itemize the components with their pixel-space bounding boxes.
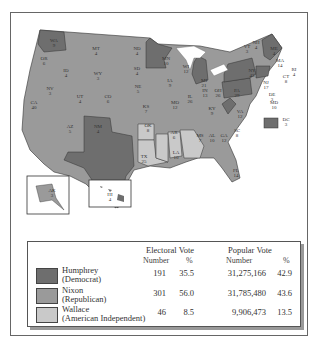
- svg-text:14: 14: [278, 63, 284, 68]
- ev-number: 191: [146, 268, 166, 278]
- svg-text:10: 10: [164, 61, 170, 66]
- state-ma-ct-ri: [256, 66, 270, 78]
- svg-text:4: 4: [293, 72, 296, 77]
- pop-number: 31,275,166: [208, 268, 266, 278]
- sub-pop-percent: %: [283, 256, 290, 265]
- pop-number: 31,785,480: [208, 288, 266, 298]
- pop-percent: 43.6: [274, 288, 292, 298]
- pop-number: 9,906,473: [208, 307, 266, 317]
- svg-text:14: 14: [234, 173, 240, 178]
- svg-text:25: 25: [142, 159, 148, 164]
- pop-percent: 13.5: [274, 307, 292, 317]
- svg-text:12: 12: [184, 69, 190, 74]
- ev-number: 301: [146, 288, 166, 298]
- svg-text:17: 17: [264, 85, 270, 90]
- header-electoral-vote: Electoral Vote: [146, 245, 194, 255]
- ev-percent: 56.0: [174, 288, 194, 298]
- state-ms: [156, 134, 168, 162]
- swatch-republican: [36, 288, 58, 304]
- svg-text:8: 8: [285, 79, 288, 84]
- svg-text:26: 26: [188, 99, 194, 104]
- header-popular-vote: Popular Vote: [228, 245, 272, 255]
- svg-text:43: 43: [250, 73, 256, 78]
- pop-percent: 42.9: [274, 268, 292, 278]
- candidate-name: Nixon(Republican): [62, 286, 106, 304]
- svg-text:10: 10: [272, 105, 278, 110]
- swatch-democrat: [36, 268, 58, 284]
- sub-ev-number: Number: [143, 256, 169, 265]
- legend-row-wallace: Wallace(American Independent) 46 8.5 9,9…: [28, 305, 300, 327]
- ev-number: 46: [146, 307, 166, 317]
- svg-text:8: 8: [236, 133, 239, 138]
- svg-text:26: 26: [216, 93, 222, 98]
- svg-text:10: 10: [210, 138, 216, 143]
- svg-text:40: 40: [32, 105, 38, 110]
- results-legend: Electoral Vote Popular Vote Number % Num…: [27, 241, 301, 327]
- ev-percent: 35.5: [174, 268, 194, 278]
- candidate-name: Wallace(American Independent): [62, 305, 145, 323]
- svg-text:12: 12: [238, 114, 244, 119]
- svg-text:29: 29: [235, 93, 241, 98]
- sub-ev-percent: %: [186, 256, 193, 265]
- ev-percent: 8.5: [174, 307, 194, 317]
- svg-text:12: 12: [222, 138, 228, 143]
- candidate-name: Humphrey(Democrat): [62, 266, 101, 284]
- svg-text:13: 13: [203, 93, 209, 98]
- sub-pop-number: Number: [226, 256, 252, 265]
- svg-text:12: 12: [173, 105, 179, 110]
- state-dc-box: [264, 118, 278, 128]
- svg-text:10: 10: [174, 155, 180, 160]
- svg-text:3: 3: [285, 122, 288, 127]
- swatch-independent: [36, 307, 58, 323]
